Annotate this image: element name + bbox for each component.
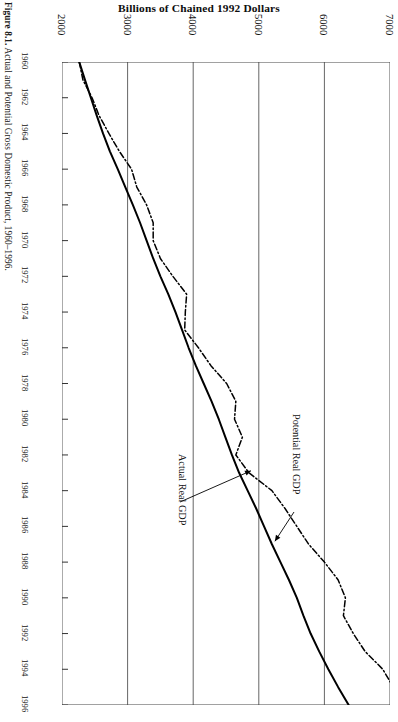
figure-caption-text: Actual and Potential Gross Domestic Prod… [3, 47, 13, 270]
year-tick-1982: 1982 [20, 445, 30, 462]
year-tick-1960: 1960 [20, 52, 30, 69]
leader-line-potential-real-gdp [275, 512, 294, 541]
year-tick-1972: 1972 [20, 266, 30, 283]
leader-line-actual-real-gdp [180, 471, 251, 502]
year-tick-1976: 1976 [20, 338, 30, 355]
year-tick-1996: 1996 [20, 695, 30, 712]
year-tick-1978: 1978 [20, 374, 30, 391]
chart-title: Billions of Chained 1992 Dollars [0, 2, 398, 14]
value-tick-3000: 3000 [122, 14, 133, 35]
figure-caption: Figure 8.1. Actual and Potential Gross D… [0, 0, 16, 722]
chart-canvas [62, 62, 390, 705]
year-tick-marks [62, 62, 68, 705]
value-tick-2000: 2000 [56, 14, 67, 35]
series-line-actual-real-gdp [79, 62, 390, 705]
year-tick-1990: 1990 [20, 588, 30, 605]
annotation-leader-lines [180, 471, 294, 541]
year-tick-1992: 1992 [20, 624, 30, 641]
series-annotation-potential-real-gdp: Potential Real GDP [291, 414, 302, 494]
year-tick-1988: 1988 [20, 552, 30, 569]
year-tick-1994: 1994 [20, 659, 30, 676]
value-tick-7000: 7000 [384, 14, 395, 35]
series-lines [79, 62, 390, 705]
value-tick-5000: 5000 [253, 14, 264, 35]
year-tick-1964: 1964 [20, 123, 30, 140]
value-tick-6000: 6000 [318, 14, 329, 35]
series-annotation-actual-real-gdp: Actual Real GDP [177, 454, 188, 525]
year-tick-1970: 1970 [20, 231, 30, 248]
series-line-potential-real-gdp [79, 62, 348, 705]
value-tick-4000: 4000 [187, 14, 198, 35]
year-tick-1968: 1968 [20, 195, 30, 212]
year-tick-1984: 1984 [20, 481, 30, 498]
year-tick-1966: 1966 [20, 159, 30, 176]
year-tick-1980: 1980 [20, 409, 30, 426]
plot-area [62, 62, 390, 705]
year-tick-1986: 1986 [20, 516, 30, 533]
year-tick-1974: 1974 [20, 302, 30, 319]
year-tick-1962: 1962 [20, 88, 30, 105]
